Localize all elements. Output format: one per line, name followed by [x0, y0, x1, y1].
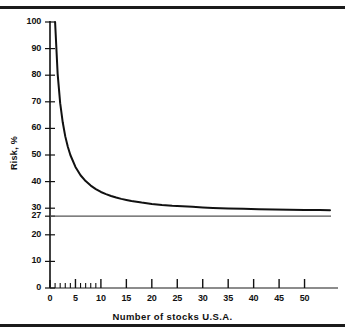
- x-tick-label: 35: [218, 293, 238, 303]
- y-tick-label: 90: [17, 43, 41, 53]
- axes-group: [45, 21, 338, 288]
- data-series-group: [55, 22, 330, 210]
- x-tick-label: 30: [193, 293, 213, 303]
- x-tick-label: 25: [167, 293, 187, 303]
- y-tick-label: 20: [17, 229, 41, 239]
- y-tick-label: 0: [17, 282, 41, 292]
- y-tick-label: 70: [17, 96, 41, 106]
- x-axis-title: Number of stocks U.S.A.: [0, 311, 345, 322]
- chart-figure: 0102027304050607080901000510152025303540…: [0, 0, 345, 333]
- x-tick-label: 45: [269, 293, 289, 303]
- x-tick-label: 15: [116, 293, 136, 303]
- x-tick-label: 0: [40, 293, 60, 303]
- series-line-portfolio-risk: [55, 22, 330, 210]
- y-tick-label: 50: [17, 149, 41, 159]
- x-tick-label: 20: [142, 293, 162, 303]
- x-tick-label: 40: [244, 293, 264, 303]
- y-tick-label: 60: [17, 122, 41, 132]
- y-tick-label: 40: [17, 176, 41, 186]
- y-tick-label: 100: [17, 16, 41, 26]
- y-axis-title: Risk, %: [9, 130, 19, 176]
- y-tick-label: 10: [17, 255, 41, 265]
- y-tick-label: 30: [17, 202, 41, 212]
- risk-diversification-chart: [0, 0, 345, 333]
- x-tick-label: 10: [91, 293, 111, 303]
- x-tick-label: 50: [295, 293, 315, 303]
- x-tick-label: 5: [65, 293, 85, 303]
- y-tick-label: 80: [17, 69, 41, 79]
